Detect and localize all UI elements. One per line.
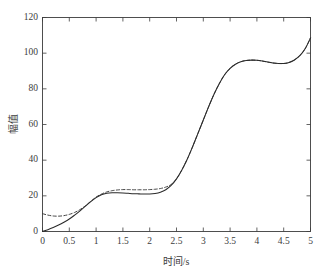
y-tick-label: 20	[8, 191, 38, 201]
chart-figure: 020406080100120 00.511.522.533.544.55 时间…	[0, 0, 323, 272]
y-tick-label: 0	[8, 227, 38, 237]
x-tick-label: 0.5	[63, 237, 75, 247]
data-series	[43, 38, 311, 231]
x-tick-label: 2	[147, 237, 152, 247]
x-tick-label: 0	[40, 237, 45, 247]
x-tick-label: 3	[201, 237, 206, 247]
x-tick-label: 2.5	[171, 237, 183, 247]
x-axis-label: 时间/s	[163, 253, 190, 268]
y-tick-label: 80	[8, 84, 38, 94]
axes-box	[43, 18, 311, 232]
y-tick-label: 40	[8, 155, 38, 165]
x-tick-label: 4	[255, 237, 260, 247]
series-line-solid	[43, 38, 311, 231]
x-tick-label: 1.5	[117, 237, 129, 247]
x-tick-label: 1	[94, 237, 99, 247]
axis-ticks	[43, 18, 311, 232]
x-tick-label: 4.5	[278, 237, 290, 247]
y-tick-label: 100	[8, 48, 38, 58]
x-tick-label: 3.5	[224, 237, 236, 247]
x-tick-label: 5	[308, 237, 313, 247]
y-axis-label: 幅值	[5, 114, 20, 134]
series-line-dashed	[43, 38, 311, 216]
plot-border	[43, 18, 311, 232]
plot-canvas	[0, 0, 323, 272]
y-tick-label: 120	[8, 13, 38, 23]
